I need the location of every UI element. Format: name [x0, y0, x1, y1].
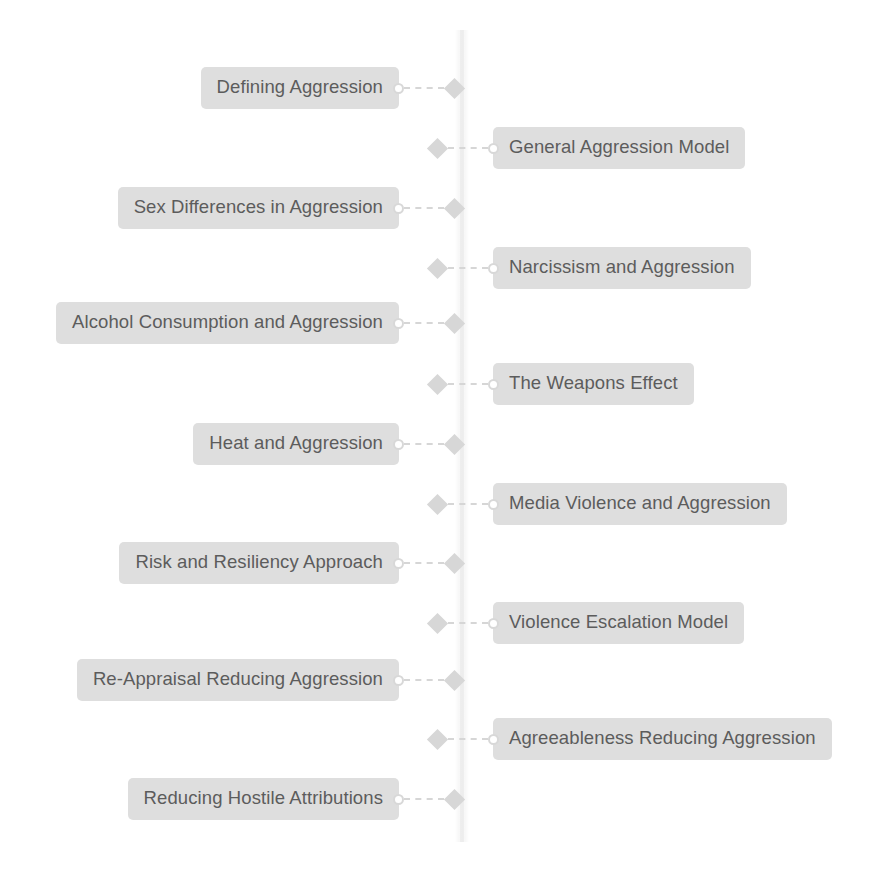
timeline-label-violence-escalation-model[interactable]: Violence Escalation Model [493, 602, 744, 644]
connector-dash [404, 562, 444, 564]
connector-dot-icon [488, 263, 499, 274]
connector-dot-icon [393, 675, 404, 686]
connector-dash [448, 622, 488, 624]
timeline-row: Violence Escalation Model [0, 603, 892, 643]
timeline-label-defining-aggression[interactable]: Defining Aggression [201, 67, 399, 109]
connector-dash [448, 383, 488, 385]
diamond-marker-icon[interactable] [427, 137, 448, 158]
timeline-row: Defining Aggression [0, 68, 892, 108]
connector-dot-icon [393, 439, 404, 450]
timeline-row: Agreeableness Reducing Aggression [0, 719, 892, 759]
connector-dot-icon [488, 618, 499, 629]
timeline-label-risk-and-resiliency-approach[interactable]: Risk and Resiliency Approach [119, 542, 399, 584]
connector-dash [448, 267, 488, 269]
connector-dot-icon [488, 499, 499, 510]
diamond-marker-icon[interactable] [427, 373, 448, 394]
connector-dot-icon [393, 83, 404, 94]
timeline-row: Sex Differences in Aggression [0, 188, 892, 228]
diamond-marker-icon[interactable] [444, 312, 465, 333]
timeline-label-alcohol-consumption-and-aggression[interactable]: Alcohol Consumption and Aggression [56, 302, 399, 344]
diamond-marker-icon[interactable] [427, 612, 448, 633]
connector-dot-icon [488, 143, 499, 154]
connector-dash [404, 679, 444, 681]
diamond-marker-icon[interactable] [444, 669, 465, 690]
connector-dash [404, 443, 444, 445]
timeline-label-narcissism-and-aggression[interactable]: Narcissism and Aggression [493, 247, 751, 289]
timeline-row: Alcohol Consumption and Aggression [0, 303, 892, 343]
connector-dot-icon [393, 318, 404, 329]
connector-dash [448, 738, 488, 740]
timeline-row: Reducing Hostile Attributions [0, 779, 892, 819]
diamond-marker-icon[interactable] [427, 257, 448, 278]
timeline-row: The Weapons Effect [0, 364, 892, 404]
timeline-label-re-appraisal-reducing-aggression[interactable]: Re-Appraisal Reducing Aggression [77, 659, 399, 701]
timeline-row: Heat and Aggression [0, 424, 892, 464]
timeline-row: Media Violence and Aggression [0, 484, 892, 524]
diamond-marker-icon[interactable] [444, 433, 465, 454]
diamond-marker-icon[interactable] [444, 197, 465, 218]
connector-dash [404, 322, 444, 324]
connector-dash [404, 207, 444, 209]
timeline-label-media-violence-and-aggression[interactable]: Media Violence and Aggression [493, 483, 787, 525]
connector-dot-icon [393, 558, 404, 569]
connector-dash [404, 87, 444, 89]
diamond-marker-icon[interactable] [444, 77, 465, 98]
diamond-marker-icon[interactable] [427, 728, 448, 749]
connector-dash [448, 147, 488, 149]
diamond-marker-icon[interactable] [444, 788, 465, 809]
timeline-row: Re-Appraisal Reducing Aggression [0, 660, 892, 700]
timeline-label-the-weapons-effect[interactable]: The Weapons Effect [493, 363, 694, 405]
timeline-label-heat-and-aggression[interactable]: Heat and Aggression [193, 423, 399, 465]
timeline-label-general-aggression-model[interactable]: General Aggression Model [493, 127, 745, 169]
timeline-label-agreeableness-reducing-aggression[interactable]: Agreeableness Reducing Aggression [493, 718, 832, 760]
connector-dot-icon [393, 203, 404, 214]
diamond-marker-icon[interactable] [444, 552, 465, 573]
connector-dot-icon [488, 734, 499, 745]
connector-dash [404, 798, 444, 800]
timeline-diagram: Defining Aggression General Aggression M… [0, 0, 892, 872]
connector-dot-icon [488, 379, 499, 390]
connector-dash [448, 503, 488, 505]
timeline-row: General Aggression Model [0, 128, 892, 168]
timeline-label-sex-differences-in-aggression[interactable]: Sex Differences in Aggression [118, 187, 399, 229]
connector-dot-icon [393, 794, 404, 805]
diamond-marker-icon[interactable] [427, 493, 448, 514]
timeline-row: Risk and Resiliency Approach [0, 543, 892, 583]
timeline-label-reducing-hostile-attributions[interactable]: Reducing Hostile Attributions [128, 778, 399, 820]
timeline-row: Narcissism and Aggression [0, 248, 892, 288]
